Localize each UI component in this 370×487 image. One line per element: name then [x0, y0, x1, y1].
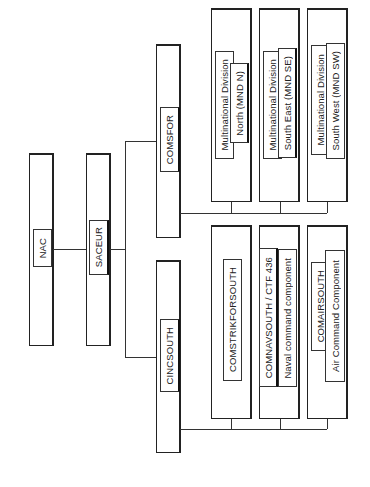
mnd-southeast-line2: South East (MND SE): [282, 56, 293, 150]
comairsouth-line2-box: Air Command Component: [325, 250, 345, 382]
mnd-southwest-line2-box: South West (MND SW): [326, 43, 345, 159]
connector-branch-vertical: [125, 141, 126, 358]
mnd-north-line2: North (MND N): [234, 71, 245, 136]
mnd-north-line2-box: North (MND N): [230, 63, 249, 143]
mnd-southeast-line2-box: South East (MND SE): [278, 48, 297, 158]
saceur-label-box: SACEUR: [89, 220, 109, 275]
connector-comsfor-mnd-horizontal: [180, 213, 327, 214]
cincsouth-label-box: CINCSOUTH: [160, 319, 180, 392]
connector-mnd-se: [280, 201, 281, 213]
connector-cincsouth-horizontal: [180, 429, 327, 430]
connector-nac-saceur: [53, 249, 86, 250]
comairsouth-line2: Air Command Component: [330, 260, 341, 372]
connector-comairsouth: [327, 418, 328, 429]
comnavsouth-line1-box: COMNAVSOUTH / CTF 436: [259, 248, 278, 387]
saceur-label: SACEUR: [93, 227, 104, 267]
comsfor-label-box: COMSFOR: [160, 107, 180, 172]
connector-mnd-n: [231, 201, 232, 213]
cincsouth-label: CINCSOUTH: [164, 327, 175, 384]
nac-label: NAC: [37, 238, 48, 258]
comnavsouth-line1: COMNAVSOUTH / CTF 436: [263, 257, 274, 378]
connector-to-cincsouth: [125, 357, 156, 358]
comsfor-label: COMSFOR: [164, 115, 175, 164]
comstrikforsouth-label-box: COMSTRIKFORSOUTH: [223, 259, 242, 381]
comnavsouth-line2-box: Naval command component: [278, 249, 297, 387]
connector-mnd-sw: [327, 201, 328, 213]
mnd-southwest-line1: Multinational Division: [315, 54, 326, 145]
mnd-north-line1: Multinational Division: [219, 59, 230, 150]
comstrikforsouth-label: COMSTRIKFORSOUTH: [227, 267, 238, 372]
connector-to-comsfor: [125, 141, 156, 142]
connector-comnavsouth: [280, 418, 281, 429]
mnd-southeast-line1: Multinational Division: [267, 59, 278, 150]
mnd-southwest-line2: South West (MND SW): [330, 51, 341, 150]
connector-comstrikforsouth: [231, 418, 232, 429]
connector-saceur-trunk: [110, 249, 126, 250]
nac-label-box: NAC: [33, 229, 52, 267]
comnavsouth-line2: Naval command component: [282, 258, 293, 379]
